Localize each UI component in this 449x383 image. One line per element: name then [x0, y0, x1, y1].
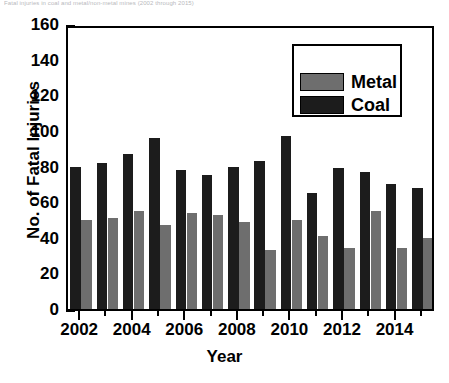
bar-coal-2002 — [70, 167, 81, 310]
bar-metal-2013 — [371, 211, 382, 309]
x-tick-label-2014: 2014 — [365, 320, 425, 340]
chart-legend: MetalCoal — [292, 44, 402, 117]
bar-metal-2008 — [239, 222, 250, 309]
x-tick-mark-2005 — [157, 311, 159, 316]
x-tick-label-2012: 2012 — [312, 320, 372, 340]
x-tick-label-2010: 2010 — [259, 320, 319, 340]
bar-metal-2014 — [397, 248, 408, 309]
x-tick-mark-2004 — [131, 311, 133, 320]
bar-metal-2009 — [265, 250, 276, 309]
x-tick-label-2006: 2006 — [154, 320, 214, 340]
bar-metal-2002 — [81, 220, 92, 309]
x-tick-mark-2015 — [420, 311, 422, 316]
y-tick-label-140: 140 — [13, 51, 59, 71]
x-tick-mark-2014 — [394, 311, 396, 320]
legend-swatch-metal — [300, 73, 344, 91]
bar-coal-2010 — [281, 136, 292, 309]
x-tick-mark-2003 — [104, 311, 106, 316]
x-axis-title: Year — [0, 347, 449, 367]
bar-coal-2006 — [176, 170, 187, 309]
bar-chart-figure: No. of Fatal Injuries 020406080100120140… — [0, 0, 449, 383]
x-tick-mark-2006 — [183, 311, 185, 320]
y-tick-label-100: 100 — [13, 122, 59, 142]
bar-metal-2011 — [318, 236, 329, 309]
x-tick-mark-2013 — [367, 311, 369, 316]
legend-label-coal: Coal — [351, 96, 390, 114]
bar-metal-2010 — [292, 220, 303, 309]
x-tick-mark-2010 — [288, 311, 290, 320]
bar-coal-2004 — [123, 154, 134, 309]
bar-metal-2007 — [213, 215, 224, 309]
y-tick-label-80: 80 — [13, 158, 59, 178]
legend-label-metal: Metal — [351, 73, 397, 91]
bar-coal-2007 — [202, 175, 213, 309]
y-tick-label-40: 40 — [13, 229, 59, 249]
x-tick-mark-2009 — [262, 311, 264, 316]
bar-coal-2015 — [412, 188, 423, 309]
x-tick-label-2008: 2008 — [207, 320, 267, 340]
x-tick-mark-2011 — [315, 311, 317, 316]
y-tick-label-0: 0 — [13, 300, 59, 320]
bar-coal-2014 — [386, 184, 397, 309]
bar-metal-2005 — [160, 225, 171, 309]
bar-metal-2012 — [344, 248, 355, 309]
bar-metal-2003 — [108, 218, 119, 309]
x-tick-mark-2012 — [341, 311, 343, 320]
bar-coal-2013 — [360, 172, 371, 309]
bar-metal-2015 — [423, 238, 434, 309]
y-tick-label-120: 120 — [13, 86, 59, 106]
x-tick-mark-2008 — [236, 311, 238, 320]
y-tick-label-60: 60 — [13, 193, 59, 213]
bar-coal-2008 — [228, 167, 239, 310]
bar-metal-2004 — [134, 211, 145, 309]
legend-item-metal: Metal — [300, 72, 397, 92]
y-tick-label-20: 20 — [13, 264, 59, 284]
bar-coal-2003 — [97, 163, 108, 309]
legend-swatch-coal — [300, 96, 344, 114]
bar-coal-2009 — [254, 161, 265, 309]
bar-coal-2012 — [333, 168, 344, 309]
bar-coal-2005 — [149, 138, 160, 309]
bar-metal-2006 — [187, 213, 198, 309]
x-tick-label-2004: 2004 — [102, 320, 162, 340]
y-tick-label-160: 160 — [13, 15, 59, 35]
x-tick-mark-2007 — [210, 311, 212, 316]
bar-coal-2011 — [307, 193, 318, 309]
x-tick-mark-2002 — [78, 311, 80, 320]
legend-item-coal: Coal — [300, 95, 390, 115]
x-tick-label-2002: 2002 — [49, 320, 109, 340]
